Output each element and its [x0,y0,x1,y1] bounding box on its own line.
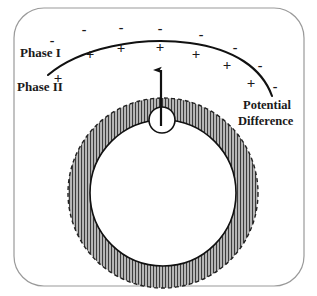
negative-charge-symbol: - [233,40,238,55]
negative-charge-symbol: - [258,58,263,73]
positive-charge-symbol: + [117,40,126,56]
positive-charge-symbol: + [223,57,232,73]
negative-charge-symbol: - [158,21,163,36]
negative-charge-symbol: - [119,20,124,35]
negative-charge-symbol: - [273,79,278,94]
label-phase-two: Phase II [17,79,63,94]
label-potential-difference-line2: Difference [238,114,294,128]
negative-charge-symbol: - [82,22,87,37]
positive-charge-symbol: + [156,39,165,55]
positive-charge-symbol: + [247,75,256,91]
label-potential-difference-line1: Potential [243,98,291,112]
negative-charge-symbol: - [199,27,204,42]
figure-container: -------- +++++++ Phase I Phase II Potent… [0,0,317,296]
positive-charge-symbol: + [86,46,95,62]
positive-charge-symbol: + [192,46,201,62]
diagram-canvas: -------- +++++++ Phase I Phase II Potent… [0,0,317,296]
label-phase-one: Phase I [20,45,61,60]
